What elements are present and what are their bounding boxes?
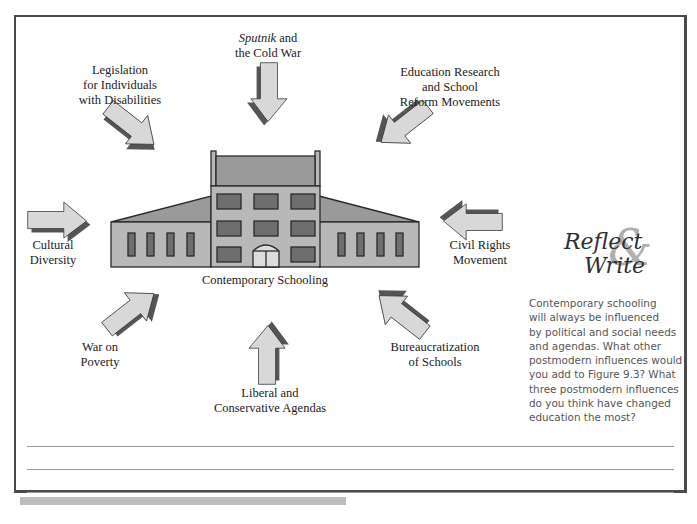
- label-line: Legislation: [92, 63, 148, 77]
- label-line: Civil Rights: [450, 238, 511, 252]
- label-line: Poverty: [81, 355, 120, 369]
- arrow-down-icon: [247, 63, 287, 126]
- label-line: Liberal and: [241, 386, 298, 400]
- label-war-on-poverty: War on Poverty: [70, 340, 130, 370]
- label-sputnik-italic: Sputnik: [239, 31, 277, 45]
- answer-line-1[interactable]: [27, 446, 674, 447]
- answer-line-3[interactable]: [27, 492, 674, 493]
- label-line: Conservative Agendas: [214, 401, 326, 415]
- reflect-write-title: & Reflect Write: [560, 225, 690, 285]
- label-cultural-diversity: Cultural Diversity: [18, 238, 88, 268]
- label-sputnik-line2: the Cold War: [235, 46, 301, 60]
- prompt-line: and agendas. What other: [529, 339, 694, 353]
- reflect-write-prompt: Contemporary schooling will always be in…: [529, 296, 694, 425]
- arrow-up-icon: [249, 322, 289, 385]
- prompt-line: do you think have changed: [529, 396, 694, 410]
- label-line: and School: [422, 80, 478, 94]
- label-line: Bureaucratization: [391, 340, 480, 354]
- label-line: Cultural: [33, 238, 74, 252]
- reflect-word: Reflect: [564, 229, 642, 254]
- prompt-line: Contemporary schooling: [529, 296, 694, 310]
- prompt-line: you add to Figure 9.3? What: [529, 367, 694, 381]
- label-legislation: Legislation for Individuals with Disabil…: [60, 63, 180, 108]
- label-sputnik-rest: and: [276, 31, 297, 45]
- label-liberal-conservative: Liberal and Conservative Agendas: [200, 386, 340, 416]
- label-line: with Disabilities: [79, 93, 161, 107]
- label-education-research: Education Research and School Reform Mov…: [385, 65, 515, 110]
- label-line: Diversity: [30, 253, 77, 267]
- label-sputnik: Sputnik and the Cold War: [218, 31, 318, 61]
- label-line: Education Research: [400, 65, 500, 79]
- answer-line-2[interactable]: [27, 469, 674, 470]
- label-line: of Schools: [408, 355, 461, 369]
- prompt-line: will always be influenced: [529, 310, 694, 324]
- prompt-line: postmodern influences would: [529, 353, 694, 367]
- label-line: for Individuals: [83, 78, 157, 92]
- arrow-right-icon: [28, 202, 91, 242]
- label-line: Movement: [453, 253, 507, 267]
- label-civil-rights: Civil Rights Movement: [440, 238, 520, 268]
- label-line: War on: [82, 340, 118, 354]
- center-label: Contemporary Schooling: [195, 273, 335, 288]
- write-word: Write: [584, 253, 645, 278]
- label-bureaucratization: Bureaucratization of Schools: [380, 340, 490, 370]
- arrow-up-right-icon: [96, 276, 170, 346]
- arrow-left-icon: [440, 200, 503, 240]
- prompt-line: by political and social needs: [529, 325, 694, 339]
- arrow-up-left-icon: [364, 277, 438, 347]
- label-line: Reform Movements: [400, 95, 500, 109]
- prompt-line: three postmodern influences: [529, 382, 694, 396]
- school-building-icon: [111, 151, 419, 267]
- prompt-line: education the most?: [529, 410, 694, 424]
